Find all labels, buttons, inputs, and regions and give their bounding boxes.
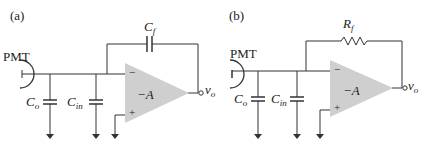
panel-b-output-terminal (403, 86, 407, 90)
panel-a-pmt-label: PMT (3, 50, 30, 63)
panel-a-cin-label: Cin (67, 95, 83, 108)
panel-b-minus: − (334, 64, 340, 75)
panel-a-plus: + (129, 107, 135, 118)
panel-a-gain-label: −A (137, 88, 154, 101)
panel-a-grounds (46, 134, 119, 139)
panel-b-pmt-label: PMT (230, 47, 257, 60)
panel-a-minus: − (129, 67, 135, 78)
circuit-diagrams (0, 0, 432, 148)
panel-a-output-terminal (199, 91, 203, 95)
panel-b-cin-label: Cin (271, 92, 287, 105)
panel-a-label: (a) (10, 9, 24, 22)
panel-b-feedback-label: Rf (343, 17, 353, 30)
panel-a-co-label: Co (26, 95, 39, 108)
panel-b-gain-label: −A (343, 84, 360, 97)
panel-b-label: (b) (229, 9, 244, 22)
panel-b-co-label: Co (234, 92, 247, 105)
panel-b-plus: + (334, 102, 340, 113)
panel-b-grounds (254, 134, 324, 139)
panel-a-feedback-label: Cf (144, 20, 155, 33)
panel-b-output-label: vo (408, 79, 418, 92)
panel-a-output-label: vo (205, 83, 215, 96)
